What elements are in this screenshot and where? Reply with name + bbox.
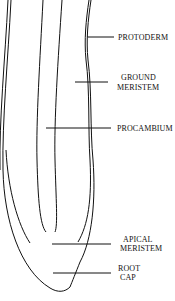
label-apical-meristem: MERISTEM [120,244,162,253]
label-ground: GROUND [121,73,156,82]
label-protoderm: PROTODERM [118,33,168,42]
label-root-cap: CAP [120,273,136,282]
label-ground-meristem: MERISTEM [117,83,159,92]
inner-boundary-left [0,0,8,170]
procambium-right [55,0,62,232]
procambium-left [37,0,46,232]
label-procambium: PROCAMBIUM [117,124,173,133]
protoderm-left [6,150,30,243]
label-root: ROOT [118,264,140,273]
label-apical: APICAL [123,235,153,244]
protoderm-right [78,0,91,242]
root-tip-drawing [0,0,175,301]
